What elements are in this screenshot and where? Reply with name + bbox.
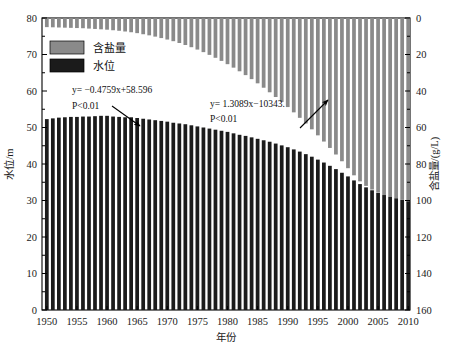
water-level-bar [244, 136, 248, 310]
water-level-bar [220, 131, 224, 310]
water-level-bar [262, 140, 266, 310]
water-level-bar [274, 144, 278, 310]
water-level-bar [159, 121, 163, 310]
water-level-bar [346, 176, 350, 310]
salinity-bar [177, 18, 181, 43]
water-level-bar [280, 145, 284, 310]
x-tick-label: 2005 [368, 316, 389, 327]
y-left-tick-label: 40 [27, 159, 38, 170]
salinity-bar [51, 18, 55, 27]
salinity-bar [382, 18, 386, 195]
salinity-bar [165, 18, 169, 40]
salinity-bar [322, 18, 326, 142]
salinity-bar [364, 18, 368, 186]
y-left-tick-label: 70 [27, 49, 38, 60]
water-level-bar [69, 117, 73, 310]
salinity-bar [105, 18, 109, 30]
salinity-bar [298, 18, 302, 118]
water-level-bar [328, 166, 332, 310]
salinity-bar [388, 18, 392, 197]
salinity-bar [286, 18, 290, 107]
salinity-bar [310, 18, 314, 129]
salinity-bar [141, 18, 145, 34]
x-tick-label: 2010 [398, 316, 419, 327]
salinity-bar [376, 18, 380, 192]
legend-label-water-level: 水位 [93, 59, 115, 72]
y-left-tick-label: 60 [27, 86, 38, 97]
x-tick-label: 2000 [337, 316, 358, 327]
water-level-bar [51, 118, 55, 310]
water-level-bar [352, 180, 356, 310]
salinity-bar [171, 18, 175, 41]
salinity-bar [244, 18, 248, 75]
water-level-bar [322, 163, 326, 310]
water-level-bar [123, 117, 127, 310]
x-tick-label: 1990 [277, 316, 298, 327]
water-level-bar [135, 118, 139, 310]
salinity-bar [214, 18, 218, 58]
water-level-bar [298, 152, 302, 310]
water-level-bar [111, 117, 115, 310]
salinity-bar [346, 18, 350, 168]
salinity-bar [190, 18, 194, 47]
water-level-bar [87, 117, 91, 310]
x-tick-label: 1950 [36, 316, 57, 327]
water-level-bar [250, 137, 254, 310]
water-level-bar [147, 119, 151, 310]
water-level-bar [177, 123, 181, 310]
water-level-bar [226, 132, 230, 310]
salinity-bar [208, 18, 212, 55]
salinity-bar [111, 18, 115, 30]
water-level-bar [388, 197, 392, 310]
water-level-bar [358, 184, 362, 310]
y-right-axis-title: 含盐量/(g/L) [428, 136, 441, 191]
salinity-bar [75, 18, 79, 28]
water-level-bar [268, 142, 272, 310]
legend-swatch-water-level [50, 59, 84, 72]
y-right-tick-label: 60 [416, 122, 427, 133]
water-level-bar [63, 117, 67, 310]
y-left-tick-label: 20 [27, 232, 38, 243]
salinity-bar [135, 18, 139, 33]
salinity-equation: y= 1.3089x−10343. [210, 99, 285, 109]
salinity-bar [232, 18, 236, 68]
salinity-bar [250, 18, 254, 79]
y-right-tick-label: 140 [416, 268, 432, 279]
salinity-bar [358, 18, 362, 181]
water-level-bar [208, 129, 212, 310]
legend-label-salinity: 含盐量 [93, 41, 126, 54]
water-level-bar [292, 149, 296, 310]
water-level-pvalue: P<0.01 [72, 101, 100, 111]
salinity-bar [370, 18, 374, 190]
salinity-bar [129, 18, 133, 32]
water-level-bar [286, 147, 290, 310]
salinity-bar [226, 18, 230, 64]
x-tick-label: 1965 [127, 316, 148, 327]
salinity-bar [316, 18, 320, 135]
salinity-bar [45, 18, 49, 27]
y-right-tick-label: 80 [416, 159, 427, 170]
water-level-bar [364, 187, 368, 310]
y-right-tick-label: 40 [416, 86, 427, 97]
water-level-bar [75, 117, 79, 310]
water-level-bar [214, 130, 218, 310]
water-level-bar [117, 117, 121, 310]
salinity-bar [153, 18, 157, 37]
salinity-bar [69, 18, 73, 28]
salinity-bar [117, 18, 121, 31]
water-level-bar [334, 169, 338, 310]
salinity-bar [340, 18, 344, 161]
water-level-bar [129, 117, 133, 310]
water-level-bar [202, 128, 206, 311]
x-tick-label: 1970 [157, 316, 178, 327]
water-level-bar [238, 135, 242, 310]
water-level-bar [183, 124, 187, 310]
salinity-bar [202, 18, 206, 52]
y-right-tick-label: 120 [416, 232, 432, 243]
water-level-bar [171, 123, 175, 310]
x-tick-label: 1985 [247, 316, 268, 327]
salinity-bar [328, 18, 332, 148]
salinity-bar [57, 18, 61, 27]
water-level-bar [81, 117, 85, 310]
salinity-bar [400, 18, 404, 200]
